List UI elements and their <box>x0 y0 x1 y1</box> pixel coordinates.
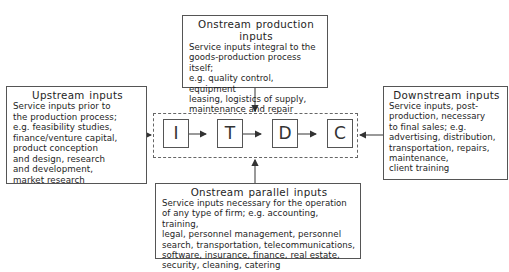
desc-line: legal, personnel management, personnel <box>162 229 356 239</box>
desc-line: and design, research <box>13 154 142 165</box>
desc-line: software, insurance, finance, real estat… <box>162 250 356 260</box>
desc-line: transportation, repairs, <box>389 143 504 153</box>
chain-node-i: I <box>163 119 189 148</box>
desc-line: Service inputs prior to <box>13 101 142 112</box>
box-description: Service inputs, post- production, necess… <box>389 101 504 174</box>
downstream-inputs-box: Downstream inputs Service inputs, post- … <box>383 86 508 180</box>
desc-line: security, cleaning, catering <box>162 260 356 270</box>
desc-line: goods-production process itself; <box>189 52 323 73</box>
desc-line: search, transportation, telecommunicatio… <box>162 240 356 250</box>
desc-line: market research <box>13 175 142 186</box>
box-title: Onstream parallel inputs <box>162 186 356 198</box>
desc-line: client training <box>389 163 504 173</box>
chain-node-t: T <box>217 119 243 148</box>
desc-line: maintenance, <box>389 153 504 163</box>
box-title: Onstream production inputs <box>189 18 323 42</box>
chain-node-d: D <box>272 119 298 148</box>
desc-line: the production process; <box>13 112 142 123</box>
onstream-production-inputs-box: Onstream production inputs Service input… <box>182 15 328 88</box>
desc-line: finance/venture capital, <box>13 133 142 144</box>
desc-line: to final sales; e.g. <box>389 122 504 132</box>
upstream-inputs-box: Upstream inputs Service inputs prior to … <box>6 86 147 184</box>
box-description: Service inputs integral to the goods-pro… <box>189 42 323 115</box>
desc-line: e.g. quality control, equipment <box>189 73 323 94</box>
desc-line: and development, <box>13 164 142 175</box>
box-title: Downstream inputs <box>389 89 504 101</box>
desc-line: production, necessary <box>389 111 504 121</box>
desc-line: product conception <box>13 143 142 154</box>
desc-line: Service inputs integral to the <box>189 42 323 52</box>
box-title: Upstream inputs <box>13 89 142 101</box>
desc-line: advertising, distribution, <box>389 132 504 142</box>
chain-node-c: C <box>327 119 353 148</box>
desc-line: Service inputs necessary for the operati… <box>162 198 356 208</box>
desc-line: of any type of firm; e.g. accounting, tr… <box>162 208 356 229</box>
onstream-parallel-inputs-box: Onstream parallel inputs Service inputs … <box>155 183 361 259</box>
box-description: Service inputs prior to the production p… <box>13 101 142 185</box>
desc-line: Service inputs, post- <box>389 101 504 111</box>
desc-line: e.g. feasibility studies, <box>13 122 142 133</box>
desc-line: leasing, logistics of supply, <box>189 94 323 104</box>
box-description: Service inputs necessary for the operati… <box>162 198 356 271</box>
